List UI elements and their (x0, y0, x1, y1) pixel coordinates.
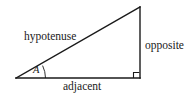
adjacent-label: adjacent (63, 81, 101, 93)
angle-arc-icon (43, 66, 46, 78)
trigonometry-figure: hypotenuse opposite adjacent A (0, 0, 191, 98)
hypotenuse-label: hypotenuse (24, 31, 76, 43)
opposite-label: opposite (145, 40, 184, 52)
right-angle-marker-icon (134, 73, 140, 79)
angle-label: A (33, 65, 39, 76)
